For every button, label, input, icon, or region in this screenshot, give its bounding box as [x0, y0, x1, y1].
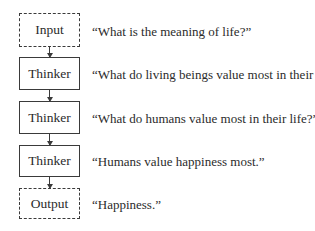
thinker-3-text: “Humans value happiness most.” [92, 155, 265, 168]
output-text: “Happiness.” [92, 198, 161, 211]
arrow-down-icon [49, 134, 50, 145]
thinker-2-text: “What do humans value most in their life… [92, 112, 315, 125]
output-node: Output [19, 188, 80, 219]
input-node: Input [19, 13, 80, 47]
arrow-down-icon [49, 47, 50, 57]
input-text: “What is the meaning of life?” [92, 25, 251, 38]
arrow-down-icon [49, 90, 50, 101]
thinker-node-3: Thinker [19, 145, 80, 177]
thinker-node-1: Thinker [19, 57, 80, 90]
thinker-node-2: Thinker [19, 101, 80, 134]
arrow-down-icon [49, 177, 50, 188]
thinker-1-text: “What do living beings value most in the… [92, 68, 315, 81]
